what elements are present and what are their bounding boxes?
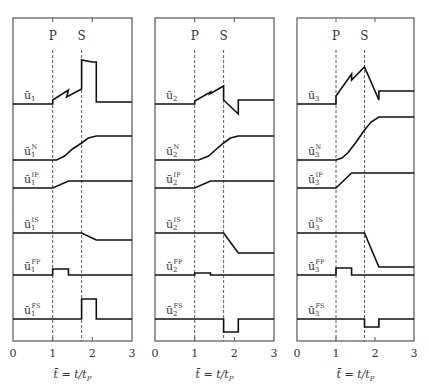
trace-FS [155,319,274,332]
trace-IS [13,233,132,240]
row-label-IP: ū2IP [166,171,181,187]
row-label-IS: ū1IS [24,216,39,232]
row-label-N: ū2N [166,143,180,159]
panel-component-2: 0123PSū2ū2Nū2IPū2ISū2FPū2FSt̄ = t/tP [152,18,278,383]
panel-component-1: 0123PSū1ū1Nū1IPū1ISū1FPū1FSt̄ = t/tP [10,18,136,383]
row-label-IP: ū3IP [308,171,323,187]
x-tick-label: 3 [271,347,278,360]
x-tick-label: 3 [411,347,418,360]
panel-component-3: 0123PSū3ū3Nū3IPū3ISū3FPū3FSt̄ = t/tP [294,18,418,383]
x-tick-label: 1 [333,347,340,360]
x-tick-label: 1 [191,347,198,360]
marker-label-S: S [220,29,228,43]
marker-label-P: P [191,29,199,43]
row-label-u: ū1 [24,89,36,103]
x-tick-label: 0 [294,347,301,360]
row-label-FP: ū2FP [166,258,183,274]
trace-IS [155,233,274,253]
x-tick-label: 3 [129,347,136,360]
row-label-IP: ū1IP [24,171,39,187]
trace-FS [297,319,414,327]
row-label-IS: ū3IS [308,216,323,232]
row-label-FS: ū3FS [308,302,325,318]
x-axis-label: t̄ = t/tP [196,368,234,383]
row-label-FS: ū2FS [166,302,183,318]
row-label-FP: ū3FP [308,258,325,274]
row-label-u: ū2 [166,89,178,103]
x-tick-label: 1 [49,347,56,360]
x-tick-label: 0 [10,347,17,360]
displacement-decomposition-chart: 0123PSū1ū1Nū1IPū1ISū1FPū1FSt̄ = t/tP0123… [0,0,429,388]
row-label-u: ū3 [308,89,320,103]
marker-label-P: P [332,29,340,43]
row-label-FP: ū1FP [24,258,41,274]
marker-label-P: P [49,29,57,43]
row-label-N: ū3N [308,143,322,159]
x-tick-label: 2 [89,347,96,360]
x-tick-label: 2 [231,347,238,360]
marker-label-S: S [78,29,86,43]
marker-label-S: S [360,29,368,43]
x-tick-label: 0 [152,347,159,360]
row-label-N: ū1N [24,143,38,159]
x-axis-label: t̄ = t/tP [337,368,375,383]
row-label-IS: ū2IS [166,216,181,232]
row-label-FS: ū1FS [24,302,41,318]
x-tick-label: 2 [372,347,379,360]
x-axis-label: t̄ = t/tP [54,368,92,383]
